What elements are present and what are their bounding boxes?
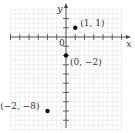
data-point	[45, 109, 49, 113]
coordinate-plane: x y 0 (1, 1)(0, −2)(−2, −8)	[0, 0, 135, 133]
data-point	[64, 53, 68, 57]
y-axis-label: y	[56, 3, 63, 14]
point-label: (−2, −8)	[0, 101, 39, 111]
data-point	[73, 26, 77, 30]
point-label: (1, 1)	[80, 18, 104, 28]
x-axis-label: x	[126, 38, 132, 49]
point-label: (0, −2)	[70, 57, 102, 67]
origin-label: 0	[59, 38, 65, 48]
y-axis-arrow-icon	[64, 3, 68, 8]
